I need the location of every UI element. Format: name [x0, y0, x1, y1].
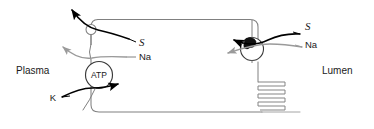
label-left-s: S: [139, 36, 145, 48]
arrow-left-na-out: [63, 47, 126, 58]
diagram-canvas: ATP S: [0, 0, 374, 129]
basolateral-symporter-icon: [86, 25, 96, 61]
membrane-serpentine-icon: [258, 62, 285, 110]
atp-label: ATP: [91, 70, 107, 80]
arrow-right-s-in: [234, 34, 300, 44]
label-plasma: Plasma: [16, 65, 50, 76]
sodium-potassium-atpase-icon: ATP: [86, 62, 113, 89]
arrow-right-na-in: [228, 44, 302, 53]
arrow-left-k-in: [62, 84, 118, 110]
label-left-k: K: [50, 92, 57, 103]
label-right-na: Na: [305, 39, 318, 50]
arrow-left-s-out: [72, 10, 129, 39]
label-right-s: S: [305, 20, 311, 32]
apical-symporter-icon: [241, 20, 264, 63]
cell-transport-diagram: ATP S: [0, 0, 374, 129]
label-left-na: Na: [139, 51, 152, 62]
label-lumen: Lumen: [322, 65, 353, 76]
